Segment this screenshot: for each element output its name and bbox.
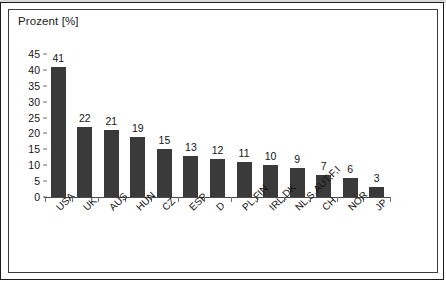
y-axis-tick-label: 35 <box>28 80 40 92</box>
bar-value-label: 7 <box>321 160 327 172</box>
y-axis-tick-label: 40 <box>28 64 40 76</box>
x-axis-line <box>44 197 390 198</box>
bar <box>77 127 92 197</box>
x-axis-tick-mark <box>390 197 391 202</box>
bar <box>130 137 145 197</box>
x-axis-tick-mark <box>178 197 179 202</box>
bar-value-label: 6 <box>347 163 353 175</box>
bar-value-label: 11 <box>239 147 250 159</box>
bar-value-label: 10 <box>265 150 277 162</box>
bar-value-label: 15 <box>159 134 171 146</box>
bar-value-label: 13 <box>185 141 197 153</box>
chart-figure: Prozent [%] 051015202530354045 412221191… <box>0 0 446 282</box>
y-axis-tick-label: 25 <box>28 112 40 124</box>
bar-value-label: 3 <box>374 172 380 184</box>
bar-value-label: 41 <box>52 52 64 64</box>
bar-value-label: 19 <box>132 122 144 134</box>
bar <box>183 156 198 197</box>
x-axis-tick-mark <box>231 197 232 202</box>
bar <box>51 67 66 197</box>
bar-value-label: 9 <box>294 153 300 165</box>
y-axis-tick-label: 45 <box>28 48 40 60</box>
y-axis-tick-label: 30 <box>28 96 40 108</box>
bar-value-label: 22 <box>79 112 91 124</box>
y-axis-tick-label: 15 <box>28 143 40 155</box>
x-axis-tick-mark <box>98 197 99 202</box>
bar-value-label: 21 <box>106 115 118 127</box>
bar <box>210 159 225 197</box>
x-axis-tick-mark <box>45 197 46 202</box>
plot-area <box>45 54 390 197</box>
y-axis-tick-label: 0 <box>34 191 40 203</box>
y-axis-tick-label: 20 <box>28 127 40 139</box>
y-axis-tick-label: 10 <box>28 159 40 171</box>
bar <box>237 162 252 197</box>
bar <box>157 149 172 197</box>
bar <box>369 187 384 197</box>
y-axis-tick-label: 5 <box>34 175 40 187</box>
bar-value-label: 12 <box>212 144 224 156</box>
bar <box>104 130 119 197</box>
y-axis-tick-labels: 051015202530354045 <box>18 0 40 282</box>
